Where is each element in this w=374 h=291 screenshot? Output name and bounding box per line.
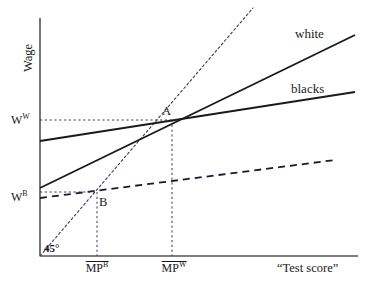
blacks-wage-line — [40, 92, 355, 141]
x-tick-mp-white: MPW — [162, 261, 187, 274]
y-tick-wage-black-base: W — [11, 190, 22, 204]
angle-label-45: 45° — [44, 243, 59, 254]
x-tick-mp-white-base: MP — [162, 261, 179, 275]
x-tick-mp-black: MPB — [86, 261, 109, 274]
forty-five-degree-line — [40, 8, 253, 256]
x-tick-mp-white-sup: W — [179, 260, 186, 269]
y-tick-wage-white-sup: W — [22, 112, 29, 121]
point-label-a: A — [162, 105, 171, 118]
series-label-white: white — [295, 27, 324, 40]
y-tick-wage-black-sup: B — [22, 189, 27, 198]
point-label-b: B — [99, 196, 107, 209]
y-tick-wage-white-base: W — [11, 113, 22, 127]
wage-test-score-diagram: Wage “Test score” white blacks A B 45° W… — [0, 0, 374, 291]
y-tick-wage-black: WB — [11, 191, 28, 203]
white-wage-line — [40, 35, 355, 188]
x-tick-mp-black-sup: B — [103, 260, 108, 269]
y-axis-label: Wage — [22, 44, 35, 72]
x-axis-label: “Test score” — [277, 262, 338, 275]
y-tick-wage-white: WW — [11, 114, 30, 126]
series-label-blacks: blacks — [291, 82, 324, 95]
x-tick-mp-black-base: MP — [86, 261, 103, 275]
